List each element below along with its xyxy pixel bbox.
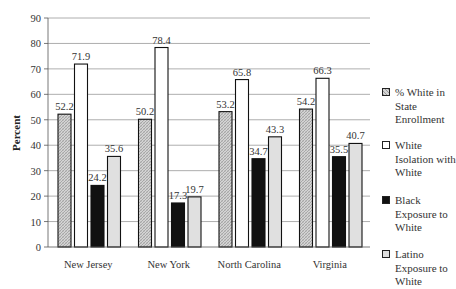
bar [58, 114, 71, 247]
y-tick-label: 0 [36, 242, 41, 253]
y-tick-label: 40 [31, 140, 42, 151]
data-label: 54.2 [297, 96, 315, 107]
data-label: 71.9 [72, 51, 90, 62]
x-axis: New JerseyNew YorkNorth CarolinaVirginia [48, 247, 370, 270]
data-label: 65.8 [233, 67, 251, 78]
y-tick-label: 30 [31, 166, 42, 177]
bar [188, 197, 201, 247]
bar [300, 109, 313, 247]
data-label: 52.2 [55, 101, 73, 112]
bar [236, 80, 249, 247]
data-label: 43.3 [266, 124, 284, 135]
y-tick-label: 10 [31, 217, 42, 228]
x-category-label: Virginia [313, 259, 348, 270]
y-tick-label: 60 [31, 89, 42, 100]
data-label: 40.7 [346, 130, 364, 141]
bar [91, 185, 104, 247]
light-gray-swatch-icon [382, 250, 390, 258]
data-label: 35.6 [105, 143, 123, 154]
data-label: 19.7 [185, 184, 203, 195]
bar [252, 159, 265, 247]
bar [108, 156, 121, 247]
y-axis-label: Percent [10, 115, 22, 151]
x-category-label: North Carolina [218, 259, 282, 270]
data-label: 78.4 [152, 35, 171, 46]
bar [139, 119, 152, 247]
bar [75, 64, 88, 247]
legend-label: Latino Exposure to White [395, 248, 456, 289]
bar [155, 48, 168, 247]
y-tick-label: 70 [31, 64, 42, 75]
bar [333, 157, 346, 247]
data-label: 66.3 [313, 65, 331, 76]
x-category-label: New Jersey [64, 259, 113, 270]
bar [316, 78, 329, 247]
hatched-swatch-icon [382, 88, 390, 96]
x-category-label: New York [147, 259, 190, 270]
y-tick-label: 80 [31, 38, 42, 49]
bar [349, 143, 362, 247]
data-label: 50.2 [136, 106, 154, 117]
legend-label: % White in State Enrollment [395, 86, 456, 127]
data-label: 24.2 [88, 172, 106, 183]
y-tick-label: 90 [31, 13, 42, 24]
bar [269, 137, 282, 247]
black-swatch-icon [382, 196, 390, 204]
y-tick-label: 20 [31, 191, 42, 202]
data-label: 35.5 [330, 144, 348, 155]
data-label: 53.2 [216, 99, 234, 110]
white-swatch-icon [382, 141, 390, 149]
legend-label: White Isolation with White [395, 139, 456, 180]
data-label: 34.7 [249, 146, 267, 157]
y-axis: 0102030405060708090 [31, 13, 49, 253]
bars: 52.271.924.235.650.278.417.319.753.265.8… [55, 35, 364, 247]
bar [172, 203, 185, 247]
bar [219, 112, 232, 247]
y-tick-label: 50 [31, 115, 42, 126]
legend-label: Black Exposure to White [395, 194, 456, 235]
